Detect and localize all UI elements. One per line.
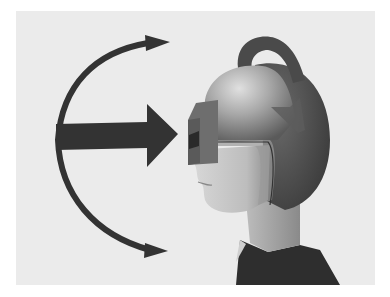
visor-display (188, 100, 218, 165)
straight-arrow-icon (56, 104, 178, 167)
vr-helmet-illustration (0, 0, 390, 297)
